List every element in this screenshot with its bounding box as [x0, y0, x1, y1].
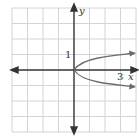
y-tick-label: 1 [65, 49, 71, 60]
y-axis-up-arrow-icon [71, 4, 77, 11]
x-axis-label: x [128, 71, 134, 82]
x-tick-label: 3 [117, 71, 123, 82]
y-axis-down-arrow-icon [71, 127, 77, 134]
lower-branch-arrow-icon [129, 84, 136, 90]
y-axis-label: y [78, 5, 85, 16]
graph: y 1 3 x [0, 0, 139, 136]
upper-branch [74, 54, 131, 71]
upper-branch-arrow-icon [129, 51, 136, 57]
